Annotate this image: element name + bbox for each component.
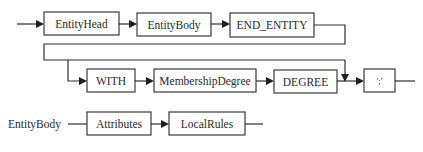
- node-entity-body: EntityBody: [137, 13, 211, 36]
- node-local-rules: LocalRules: [169, 112, 245, 135]
- node-label: EntityHead: [55, 18, 108, 31]
- node-label: EntityBody: [147, 19, 200, 32]
- rule-name-label: EntityBody: [8, 118, 61, 131]
- node-with: WITH: [87, 69, 135, 92]
- row-3: EntityBody Attributes LocalRules: [8, 112, 263, 135]
- node-label: DEGREE: [283, 76, 328, 88]
- row-2: WITH MembershipDegree DEGREE ';': [68, 60, 415, 93]
- node-label: WITH: [96, 75, 126, 87]
- node-membership-degree: MembershipDegree: [154, 69, 256, 92]
- arrow-icon: [222, 20, 230, 28]
- arrow-icon: [266, 77, 274, 85]
- arrow-icon: [79, 77, 87, 85]
- arrow-icon: [161, 120, 169, 128]
- node-label: LocalRules: [181, 118, 234, 130]
- node-label: ';': [377, 76, 383, 86]
- branch-line: [68, 60, 83, 81]
- node-semicolon: ';': [364, 69, 395, 92]
- arrow-icon: [129, 20, 137, 28]
- node-label: MembershipDegree: [159, 75, 250, 88]
- arrow-icon: [36, 20, 44, 28]
- node-attributes: Attributes: [87, 112, 151, 135]
- syntax-diagram: EntityHead EntityBody END_ENTITY WITH Me: [0, 0, 423, 152]
- node-label: Attributes: [96, 118, 143, 130]
- row-1: EntityHead EntityBody END_ENTITY: [17, 12, 345, 60]
- node-end-entity: END_ENTITY: [230, 13, 314, 37]
- node-degree: DEGREE: [274, 70, 337, 93]
- arrow-icon: [356, 77, 364, 85]
- arrow-icon: [146, 77, 154, 85]
- node-label: END_ENTITY: [237, 19, 309, 31]
- node-entity-head: EntityHead: [44, 12, 119, 35]
